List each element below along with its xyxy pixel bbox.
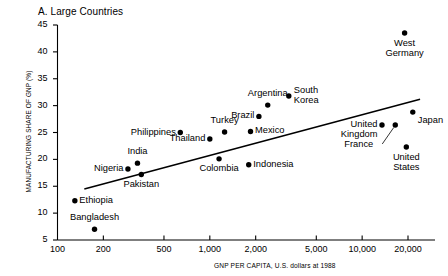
data-point — [410, 109, 415, 114]
point-label: SouthKorea — [294, 85, 319, 106]
point-label: UnitedStates — [361, 152, 448, 173]
point-label: Bangladesh — [50, 212, 140, 222]
data-point — [216, 156, 221, 161]
point-label: Ethiopia — [79, 195, 113, 205]
data-point — [207, 136, 212, 141]
data-point — [139, 172, 144, 177]
point-label: UnitedKingdom — [287, 119, 377, 140]
x-tick-label: 2,000 — [226, 244, 286, 254]
data-point — [92, 227, 97, 232]
chart-figure: A. Large Countries MANUFACTURING SHARE O… — [0, 0, 448, 276]
point-label: France — [283, 139, 373, 149]
data-point — [265, 102, 270, 107]
data-point — [402, 30, 407, 35]
y-tick-label: 5 — [22, 234, 48, 244]
point-label: Brazil — [164, 110, 254, 120]
data-point — [125, 166, 130, 171]
data-point — [72, 198, 77, 203]
data-point — [404, 144, 409, 149]
leader-lines — [382, 127, 394, 144]
data-point — [222, 129, 227, 134]
data-point — [393, 122, 398, 127]
point-label: India — [92, 146, 182, 156]
data-point — [248, 129, 253, 134]
point-label: Mexico — [255, 125, 284, 135]
x-tick-label: 200 — [73, 244, 133, 254]
y-tick-label: 20 — [22, 153, 48, 163]
data-point — [379, 122, 384, 127]
y-tick-label: 45 — [22, 19, 48, 29]
y-tick-label: 35 — [22, 73, 48, 83]
point-label: Japan — [418, 115, 443, 125]
point-label: WestGermany — [360, 38, 448, 59]
y-tick-label: 30 — [22, 100, 48, 110]
x-tick-label: 20,000 — [378, 244, 438, 254]
point-label: Nigeria — [33, 163, 123, 173]
point-label: Indonesia — [253, 159, 293, 169]
point-label: Colombia — [174, 163, 264, 173]
y-tick-label: 10 — [22, 207, 48, 217]
data-point — [135, 160, 140, 165]
y-tick-label: 15 — [22, 180, 48, 190]
y-tick-label: 25 — [22, 127, 48, 137]
point-label: Pakistan — [96, 179, 186, 189]
y-tick-label: 40 — [22, 46, 48, 56]
point-label: Thailand — [115, 133, 205, 143]
